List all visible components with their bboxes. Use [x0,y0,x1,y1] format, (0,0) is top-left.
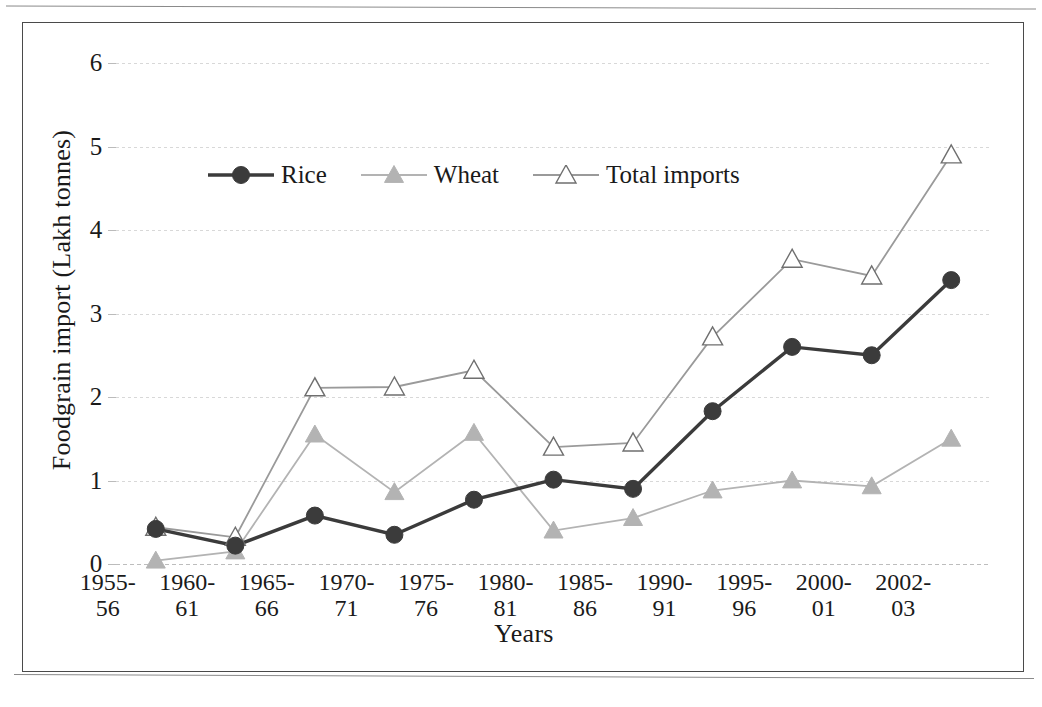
legend-label: Wheat [434,161,499,189]
data-point-rice [465,491,482,508]
data-point-rice [227,537,244,554]
data-point-wheat [385,483,404,500]
y-axis-title: Foodgrain import (Lakh tonnes) [47,65,77,535]
y-tick-label: 3 [90,300,115,328]
legend-entry-wheat[interactable]: Wheat [361,161,499,189]
series-line-rice [156,280,951,546]
x-axis-title: Years [23,619,1025,649]
legend-entry-rice[interactable]: Rice [208,161,327,189]
y-gridline [116,564,991,565]
data-point-rice [386,526,403,543]
y-tick-label: 1 [90,467,115,495]
y-tick-label: 6 [90,49,115,77]
legend-swatch-open-triangle-icon [533,165,599,185]
line-chart: Foodgrain import (Lakh tonnes) 012345619… [23,23,1025,673]
data-point-total-imports [941,145,961,163]
data-point-wheat [305,425,324,442]
legend-swatch-filled-triangle-icon [361,165,427,185]
y-tick-label: 2 [90,383,115,411]
data-point-total-imports [782,249,802,267]
data-point-wheat [624,509,643,526]
data-point-rice [784,338,801,355]
data-point-total-imports [464,360,484,378]
figure-frame: Foodgrain import (Lakh tonnes) 012345619… [22,22,1024,672]
legend-marker-icon [233,167,250,184]
data-point-rice [147,520,164,537]
series-layer [116,63,991,564]
data-point-wheat [942,429,961,446]
data-point-rice [704,403,721,420]
legend-label: Total imports [606,161,740,189]
x-tick-label: 2002-03 [855,569,951,622]
data-point-wheat [464,423,483,440]
data-point-total-imports [305,378,325,396]
data-point-rice [545,471,562,488]
legend-swatch-filled-circle-icon [208,165,274,185]
page-bottom-rule [14,674,1034,679]
data-point-rice [625,480,642,497]
page-top-rule [6,5,1036,9]
chart-legend: RiceWheatTotal imports [208,161,740,189]
legend-label: Rice [281,161,327,189]
data-point-total-imports [623,433,643,451]
legend-marker-icon [556,165,576,183]
plot-area: 01234561955-561960-611965-661970-711975-… [116,63,991,564]
legend-entry-total-imports[interactable]: Total imports [533,161,740,189]
data-point-wheat [783,471,802,488]
data-point-rice [943,272,960,289]
legend-marker-icon [384,166,403,183]
y-tick-label: 4 [90,216,115,244]
data-point-rice [863,347,880,364]
data-point-rice [306,507,323,524]
y-tick-label: 5 [90,133,115,161]
